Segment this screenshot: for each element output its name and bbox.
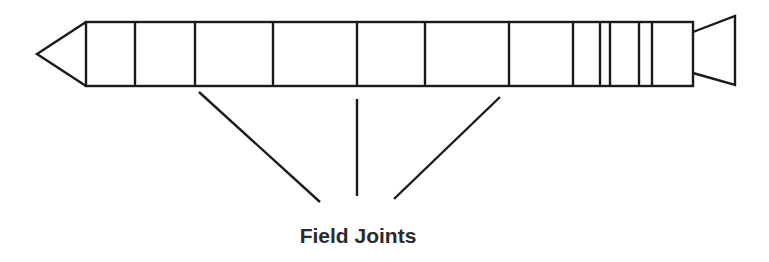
nozzle [693,16,735,85]
field-joint-pointers [199,92,500,202]
pointer-line-left [199,92,320,202]
nose-cone [37,22,86,86]
pointer-line-right [394,97,500,199]
booster-body [86,22,693,86]
segment-dividers [135,22,652,86]
rocket-diagram [0,0,769,262]
field-joints-label: Field Joints [0,224,716,248]
